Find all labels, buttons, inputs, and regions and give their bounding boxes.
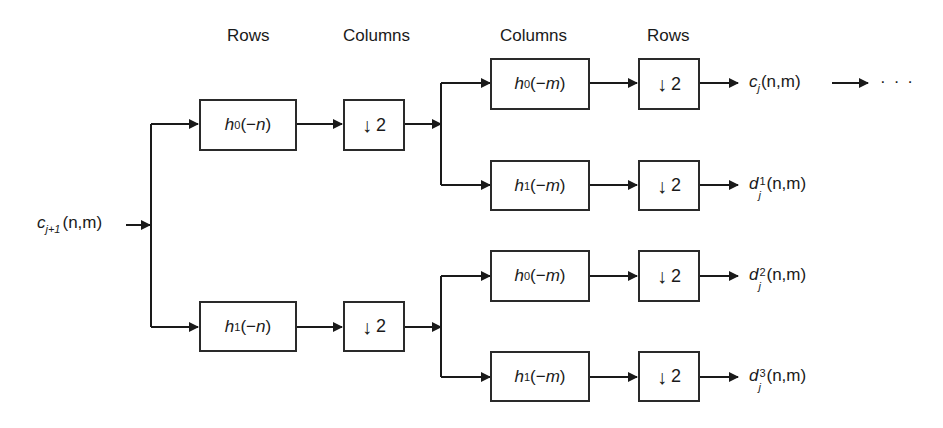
connection-wires <box>0 0 943 428</box>
header-columns-stage1: Columns <box>343 26 410 46</box>
header-rows-stage2: Rows <box>647 26 690 46</box>
filter-var: m <box>546 266 560 286</box>
header-rows-stage1: Rows <box>227 26 270 46</box>
filter-arg-open: (− <box>530 74 546 94</box>
filter-symbol: h <box>514 266 523 286</box>
output-dj1: d1j(n,m) <box>749 174 806 194</box>
downsample-factor: 2 <box>376 316 386 337</box>
filter-h1-columns-2: h1(−m) <box>490 351 590 402</box>
downsample-columns-bottom: ↓2 <box>343 301 405 352</box>
filter-var: n <box>256 317 265 337</box>
output-dj2: d2j(n,m) <box>749 265 806 285</box>
down-arrow-icon: ↓ <box>657 266 667 286</box>
down-arrow-icon: ↓ <box>657 176 667 196</box>
filter-arg-close: ) <box>560 74 566 94</box>
filter-arg-close: ) <box>560 367 566 387</box>
output-args: (n,m) <box>766 174 806 193</box>
filter-var: n <box>256 115 265 135</box>
input-subscript: j+1 <box>46 223 61 235</box>
filter-h0-columns-1: h0(−m) <box>490 58 590 110</box>
output-args: (n,m) <box>766 265 806 284</box>
downsample-rows-2: ↓2 <box>638 160 700 211</box>
output-cj: cj(n,m) <box>749 72 801 98</box>
filter-symbol: h <box>225 115 234 135</box>
down-arrow-icon: ↓ <box>362 115 372 135</box>
downsample-factor: 2 <box>671 266 681 287</box>
filter-h0-rows: h0(−n) <box>199 99 297 151</box>
down-arrow-icon: ↓ <box>362 317 372 337</box>
wavelet-filter-bank-diagram: Rows Columns Columns Rows cj+1(n,m) h0(−… <box>0 0 943 428</box>
filter-var: m <box>546 176 560 196</box>
output-subscript: j <box>758 82 760 94</box>
filter-symbol: h <box>514 367 523 387</box>
downsample-rows-3: ↓2 <box>638 250 700 302</box>
input-symbol: c <box>37 213 46 232</box>
continuation-ellipsis: ··· <box>880 72 921 92</box>
filter-arg-close: ) <box>560 266 566 286</box>
downsample-rows-1: ↓2 <box>638 58 700 110</box>
down-arrow-icon: ↓ <box>657 74 667 94</box>
downsample-columns-top: ↓2 <box>343 99 405 151</box>
filter-h1-rows: h1(−n) <box>199 301 297 352</box>
output-subscript: j <box>758 377 760 397</box>
downsample-factor: 2 <box>671 74 681 95</box>
output-subscript: j <box>758 276 760 296</box>
output-args: (n,m) <box>761 72 801 91</box>
filter-arg-open: (− <box>240 115 256 135</box>
filter-var: m <box>546 74 560 94</box>
filter-arg-close: ) <box>265 115 271 135</box>
input-args: (n,m) <box>63 213 103 232</box>
header-columns-stage2: Columns <box>500 26 567 46</box>
downsample-factor: 2 <box>671 175 681 196</box>
input-signal-label: cj+1(n,m) <box>37 213 102 239</box>
filter-arg-close: ) <box>265 317 271 337</box>
filter-symbol: h <box>514 176 523 196</box>
downsample-factor: 2 <box>376 115 386 136</box>
downsample-factor: 2 <box>671 366 681 387</box>
filter-var: m <box>546 367 560 387</box>
filter-arg-open: (− <box>530 367 546 387</box>
output-dj3: d3j(n,m) <box>749 366 806 386</box>
filter-arg-open: (− <box>530 176 546 196</box>
filter-h0-columns-2: h0(−m) <box>490 250 590 302</box>
down-arrow-icon: ↓ <box>657 367 667 387</box>
output-symbol: c <box>749 72 758 91</box>
filter-arg-open: (− <box>530 266 546 286</box>
output-subscript: j <box>758 185 760 205</box>
downsample-rows-4: ↓2 <box>638 351 700 402</box>
filter-h1-columns-1: h1(−m) <box>490 160 590 211</box>
filter-symbol: h <box>225 317 234 337</box>
filter-arg-close: ) <box>560 176 566 196</box>
filter-arg-open: (− <box>240 317 256 337</box>
filter-symbol: h <box>514 74 523 94</box>
output-args: (n,m) <box>766 366 806 385</box>
